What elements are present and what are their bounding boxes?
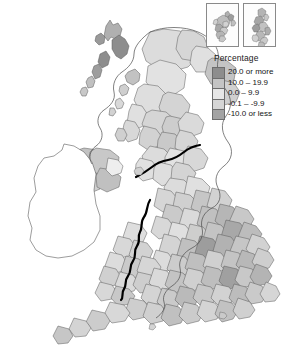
legend-entry[interactable]: -0.1 – -9.9 — [212, 99, 292, 110]
inset-map-right[interactable] — [243, 3, 276, 47]
inset-map-left[interactable] — [206, 3, 239, 47]
uk-choropleth-map: Percentage 20.0 or more 10.0 – 19.9 0.0 … — [0, 0, 292, 348]
legend-swatch-20-or-more — [212, 67, 225, 78]
legend-swatch-neg10-or-less — [212, 109, 225, 120]
inset-maps — [206, 3, 276, 47]
legend-swatch-10-to-19 — [212, 78, 225, 89]
legend-label: 20.0 or more — [228, 67, 273, 78]
legend-label: -0.1 – -9.9 — [228, 99, 264, 110]
legend-swatch-0-to-9 — [212, 88, 225, 99]
legend-label: 10.0 – 19.9 — [228, 78, 268, 89]
map-legend: Percentage 20.0 or more 10.0 – 19.9 0.0 … — [212, 53, 292, 120]
legend-title: Percentage — [214, 53, 292, 63]
legend-label: 0.0 – 9.9 — [228, 88, 259, 99]
legend-entries: 20.0 or more 10.0 – 19.9 0.0 – 9.9 -0.1 … — [212, 67, 292, 120]
legend-entry[interactable]: 0.0 – 9.9 — [212, 88, 292, 99]
legend-entry[interactable]: -10.0 or less — [212, 109, 292, 120]
legend-entry[interactable]: 10.0 – 19.9 — [212, 78, 292, 89]
legend-swatch-neg0-to-neg9 — [212, 99, 225, 110]
legend-label: -10.0 or less — [228, 109, 272, 120]
legend-entry[interactable]: 20.0 or more — [212, 67, 292, 78]
